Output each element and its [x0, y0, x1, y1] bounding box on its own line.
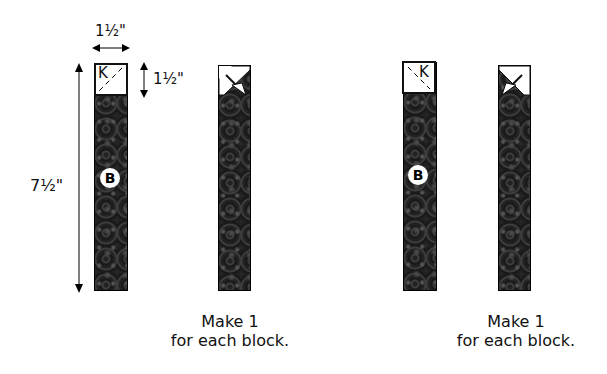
caption-left: Make 1 for each block.: [150, 312, 310, 350]
caption-line-1: Make 1: [150, 312, 310, 331]
length-arrow-icon: [73, 63, 85, 293]
folded-corner-icon: [218, 65, 251, 98]
width-dimension-label: 1½": [95, 22, 126, 40]
k-height-dimension-label: 1½": [153, 70, 184, 88]
caption-right: Make 1 for each block.: [432, 312, 600, 350]
k-label: K: [98, 66, 108, 81]
k-height-arrow-icon: [138, 62, 150, 98]
caption-line-1: Make 1: [432, 312, 600, 331]
b-label: B: [100, 168, 120, 188]
caption-line-2: for each block.: [432, 331, 600, 350]
length-dimension-label: 7½": [30, 176, 63, 195]
k-label: K: [419, 65, 429, 80]
folded-corner-icon: [498, 65, 531, 98]
width-arrow-icon: [92, 42, 130, 54]
b-label: B: [408, 165, 428, 185]
caption-line-2: for each block.: [150, 331, 310, 350]
